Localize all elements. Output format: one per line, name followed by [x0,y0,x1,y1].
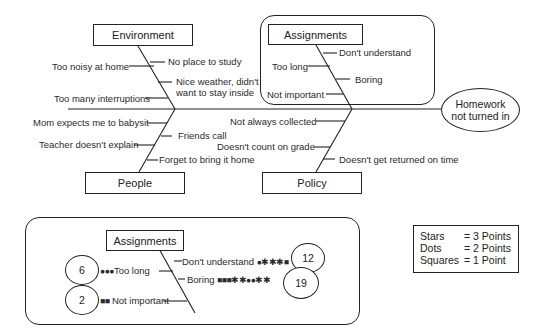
cause-label: Teacher doesn't explain [39,139,139,150]
effect-ellipse: Homework not turned in [441,88,520,132]
legend-row: Stars= 3 Points [420,230,512,242]
legend-row: Dots= 2 Points [420,242,512,254]
cause-label: Too long [272,61,308,72]
category-label: People [118,177,152,189]
cause-label: No place to study [168,56,241,67]
detail-cause-label: Boring ■■■✱✱●●✱✱ [187,274,270,286]
cause-label: Doesn't count on grade [217,141,315,152]
cause-label: Too many interruptions [54,93,150,104]
category-label: Policy [297,177,326,189]
points-legend: Stars= 3 Points Dots= 2 Points Squares= … [413,225,519,273]
cause-label: Boring [355,74,382,85]
detail-category-box: Assignments [106,230,184,251]
cause-label: Don't understand [339,47,411,58]
cause-label: Not important [267,89,324,100]
tally-symbols: ■■ [100,296,109,306]
category-assignments-box: Assignments [268,24,363,45]
detail-cause-label: ■■ Not important [100,295,169,307]
score-circle: 2 [65,285,99,315]
category-label: Environment [112,29,174,41]
score-circle: 19 [283,267,319,299]
effect-label: Homework not turned in [448,98,514,122]
cause-label: Too noisy at home [52,61,129,72]
cause-label: Mom expects me to babysit [33,117,149,128]
category-label: Assignments [114,235,177,247]
score-circle: 6 [65,255,99,285]
cause-label: Forget to bring it home [159,154,255,165]
cause-label: Nice weather, didn't want to stay inside [176,76,276,98]
detail-cause-label: ●●●Too long [100,265,150,277]
tally-symbols: ●●● [100,266,114,276]
category-environment-box: Environment [93,24,193,46]
cause-label: Not always collected [230,116,317,127]
cause-label: Doesn't get returned on time [339,154,459,165]
category-label: Assignments [284,29,347,41]
legend-row: Squares= 1 Point [420,254,512,266]
category-policy-box: Policy [262,172,362,194]
cause-label: Friends call [178,130,227,141]
detail-cause-label: Don't understand ●✱✱✱■ [182,256,288,268]
tally-symbols: ●✱✱✱■ [257,257,289,267]
category-people-box: People [85,172,185,194]
tally-symbols: ■■■✱✱●●✱✱ [217,275,270,285]
